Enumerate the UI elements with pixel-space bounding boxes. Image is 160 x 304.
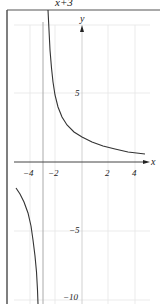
curve-right-branch — [48, 10, 145, 154]
y-tick-label: −10 — [63, 292, 79, 302]
x-axis-arrow-icon — [143, 160, 150, 164]
x-axis-label: x — [150, 156, 156, 167]
y-axis-arrow-icon — [80, 25, 84, 32]
y-tick-label: −5 — [69, 225, 80, 235]
y-tick-label: 5 — [75, 88, 80, 98]
x-tick-label: 4 — [132, 168, 137, 178]
x-tick-label: 2 — [105, 168, 110, 178]
chart-plot: y x −4 −2 2 4 5 −5 −10 — [0, 0, 160, 304]
x-tick-label: −4 — [23, 168, 34, 178]
curve-left-branch — [16, 188, 38, 304]
x-tick-label: −2 — [48, 168, 59, 178]
y-axis-label: y — [79, 13, 85, 24]
